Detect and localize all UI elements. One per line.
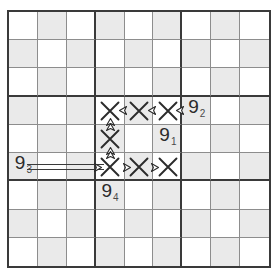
grid-cell-r8c1[interactable] [9, 210, 38, 238]
grid-cell-r2c6[interactable] [153, 40, 182, 68]
arrow-r5c4-above-icon [105, 122, 116, 133]
candidate-subscript: 2 [200, 109, 206, 119]
grid-cell-r3c6[interactable] [153, 68, 182, 96]
grid-cell-r2c1[interactable] [9, 40, 38, 68]
grid-cell-r3c4[interactable] [96, 68, 125, 96]
candidate-label-9-2: 92 [182, 97, 211, 125]
candidate-digit: 9 [15, 153, 26, 172]
grid-cell-r8c8[interactable] [211, 210, 240, 238]
grid-cell-r8c2[interactable] [38, 210, 67, 238]
grid-cell-r8c5[interactable] [125, 210, 154, 238]
candidate-digit: 9 [159, 125, 170, 144]
grid-cell-r7c6[interactable] [153, 181, 182, 209]
grid-cell-r8c4[interactable] [96, 210, 125, 238]
grid-cell-r2c5[interactable] [125, 40, 154, 68]
candidate-label-9-4: 94 [96, 181, 125, 209]
grid-cell-r9c5[interactable] [125, 238, 154, 266]
grid-cell-r3c2[interactable] [38, 68, 67, 96]
candidate-digit: 9 [102, 181, 113, 200]
grid-cell-r7c8[interactable] [211, 181, 240, 209]
grid-cell-r2c8[interactable] [211, 40, 240, 68]
grid-cell-r5c8[interactable] [211, 125, 240, 153]
grid-cell-r7c9[interactable] [240, 181, 269, 209]
grid-cell-r7c7[interactable] [182, 181, 211, 209]
grid-cell-r5c9[interactable] [240, 125, 269, 153]
candidate-label-9-3: 93 [9, 153, 38, 181]
candidate-digit: 9 [188, 97, 199, 116]
grid-cell-r2c4[interactable] [96, 40, 125, 68]
grid-cell-r2c7[interactable] [182, 40, 211, 68]
grid-cell-r4c8[interactable] [211, 97, 240, 125]
candidate-subscript: 1 [171, 137, 177, 147]
grid-cell-r3c9[interactable] [240, 68, 269, 96]
arrow-r4c4-right-icon [117, 105, 128, 116]
grid-cell-r1c7[interactable] [182, 12, 211, 40]
grid-cell-r9c4[interactable] [96, 238, 125, 266]
grid-cell-r9c7[interactable] [182, 238, 211, 266]
grid-cell-r1c3[interactable] [67, 12, 96, 40]
sudoku-grid: 91929394 [7, 10, 271, 268]
grid-cell-r8c9[interactable] [240, 210, 269, 238]
grid-cell-r2c9[interactable] [240, 40, 269, 68]
grid-cell-r5c3[interactable] [67, 125, 96, 153]
grid-cell-r3c8[interactable] [211, 68, 240, 96]
grid-cell-r1c4[interactable] [96, 12, 125, 40]
grid-cell-r5c7[interactable] [182, 125, 211, 153]
arrow-r6c4-left-icon [93, 162, 104, 173]
grid-cell-r9c6[interactable] [153, 238, 182, 266]
grid-cell-r8c3[interactable] [67, 210, 96, 238]
grid-cell-r8c7[interactable] [182, 210, 211, 238]
sudoku-diagram: 91929394 [0, 0, 280, 277]
grid-cell-r3c7[interactable] [182, 68, 211, 96]
grid-cell-r3c5[interactable] [125, 68, 154, 96]
grid-cell-r7c5[interactable] [125, 181, 154, 209]
candidate-subscript: 4 [113, 193, 119, 203]
grid-cell-r6c8[interactable] [211, 153, 240, 181]
grid-cell-r7c3[interactable] [67, 181, 96, 209]
grid-cell-r3c1[interactable] [9, 68, 38, 96]
candidate-subscript: 3 [26, 165, 32, 175]
grid-cell-r2c2[interactable] [38, 40, 67, 68]
arrow-r6c5-left-icon [122, 162, 133, 173]
grid-cell-r6c9[interactable] [240, 153, 269, 181]
grid-cell-r1c1[interactable] [9, 12, 38, 40]
grid-cell-r9c2[interactable] [38, 238, 67, 266]
grid-cell-r4c2[interactable] [38, 97, 67, 125]
grid-cell-r6c7[interactable] [182, 153, 211, 181]
grid-cell-r1c9[interactable] [240, 12, 269, 40]
grid-cell-r9c9[interactable] [240, 238, 269, 266]
arrow-r4c5-right-icon [146, 105, 157, 116]
grid-cell-r7c1[interactable] [9, 181, 38, 209]
grid-cell-r5c5[interactable] [125, 125, 154, 153]
grid-cell-r1c5[interactable] [125, 12, 154, 40]
grid-cell-r9c1[interactable] [9, 238, 38, 266]
grid-cell-r1c6[interactable] [153, 12, 182, 40]
grid-cell-r1c2[interactable] [38, 12, 67, 40]
grid-cell-r4c3[interactable] [67, 97, 96, 125]
grid-cell-r9c8[interactable] [211, 238, 240, 266]
grid-cell-r4c9[interactable] [240, 97, 269, 125]
grid-cell-r2c3[interactable] [67, 40, 96, 68]
grid-cell-r5c1[interactable] [9, 125, 38, 153]
arrow-r6c6-left-icon [150, 162, 161, 173]
grid-cell-r5c2[interactable] [38, 125, 67, 153]
grid-cell-r4c1[interactable] [9, 97, 38, 125]
grid-cell-r8c6[interactable] [153, 210, 182, 238]
arrow-r6c4-above-icon [105, 150, 116, 161]
grid-cell-r1c8[interactable] [211, 12, 240, 40]
grid-cell-r3c3[interactable] [67, 68, 96, 96]
grid-cell-r9c3[interactable] [67, 238, 96, 266]
candidate-label-9-1: 91 [153, 125, 182, 153]
grid-cell-r7c2[interactable] [38, 181, 67, 209]
